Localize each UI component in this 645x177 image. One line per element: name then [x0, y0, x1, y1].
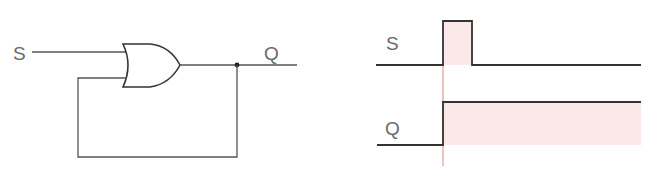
output-label-q: Q — [264, 43, 279, 64]
q-high-fill — [443, 102, 641, 145]
timing-diagram: S Q — [376, 21, 641, 166]
timing-label-q: Q — [385, 118, 400, 139]
diagram-canvas: S Q S Q — [0, 0, 645, 177]
circuit-diagram: S Q — [13, 43, 297, 157]
or-gate-icon — [123, 44, 180, 87]
s-pulse-fill — [443, 21, 472, 65]
input-label-s: S — [13, 43, 26, 64]
s-waveform — [376, 21, 641, 65]
timing-label-s: S — [386, 33, 399, 54]
